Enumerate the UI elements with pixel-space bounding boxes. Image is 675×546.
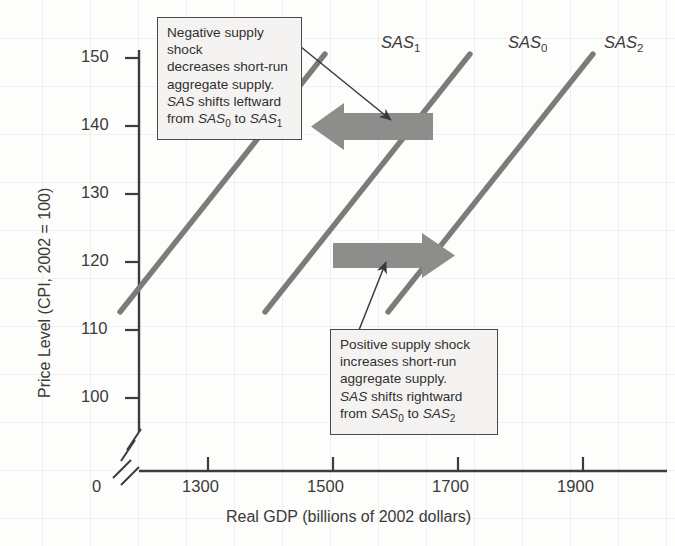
negative-note-leader <box>301 47 391 120</box>
y-tick-label-150: 150 <box>81 47 109 66</box>
negative-shock-note: Negative supply shock decreases short-ru… <box>157 17 302 140</box>
y-axis-title: Price Level (CPI, 2002 = 100) <box>36 188 54 398</box>
positive-note-sas-italic: SAS <box>340 389 367 404</box>
sas2-curve <box>388 54 593 312</box>
negative-note-line-4: SAS shifts leftward <box>167 93 293 110</box>
sas1-label-text: SAS <box>381 33 414 51</box>
positive-note-from: from <box>340 406 371 421</box>
negative-note-sas1: SAS <box>250 111 277 126</box>
positive-note-line4-rest: shifts rightward <box>367 389 462 404</box>
sas0-label-text: SAS <box>508 33 541 51</box>
y-tick-marks <box>125 58 139 398</box>
origin-label: 0 <box>92 477 101 496</box>
y-tick-label-130: 130 <box>81 183 109 202</box>
positive-note-line-3: aggregate supply. <box>340 370 489 387</box>
positive-note-sas0: SAS <box>371 406 398 421</box>
negative-note-to: to <box>231 111 250 126</box>
axis-break-marks <box>113 429 141 485</box>
positive-note-line-4: SAS shifts rightward <box>340 388 489 405</box>
x-tick-marks <box>208 457 583 471</box>
negative-note-sas0: SAS <box>198 111 225 126</box>
positive-note-line-2: increases short-run <box>340 353 489 370</box>
x-tick-label-1300: 1300 <box>182 477 219 496</box>
y-tick-label-120: 120 <box>81 251 109 270</box>
negative-note-sas-italic: SAS <box>167 94 194 109</box>
positive-note-line-1: Positive supply shock <box>340 336 489 353</box>
positive-note-sub2: 2 <box>450 413 456 424</box>
x-tick-label-1900: 1900 <box>557 477 594 496</box>
x-tick-label-1500: 1500 <box>307 477 344 496</box>
y-tick-label-140: 140 <box>81 115 109 134</box>
sas2-label-sub: 2 <box>637 42 643 54</box>
x-axis-title: Real GDP (billions of 2002 dollars) <box>226 508 471 526</box>
sas2-label-text: SAS <box>604 33 637 51</box>
y-tick-label-110: 110 <box>81 319 108 338</box>
negative-note-sub1: 1 <box>277 118 283 129</box>
negative-note-line4-rest: shifts leftward <box>194 94 281 109</box>
y-tick-label-100: 100 <box>81 387 109 406</box>
sas1-label-sub: 1 <box>414 42 420 54</box>
positive-note-line-5: from SAS0 to SAS2 <box>340 405 489 427</box>
negative-note-line-5: from SAS0 to SAS1 <box>167 110 293 132</box>
sas0-label: SAS0 <box>508 33 547 54</box>
rightward-shift-arrow <box>333 233 455 278</box>
x-tick-label-1700: 1700 <box>432 477 469 496</box>
sas1-label: SAS1 <box>381 33 420 54</box>
negative-note-from: from <box>167 111 198 126</box>
leftward-shift-arrow <box>311 103 433 150</box>
sas2-label: SAS2 <box>604 33 643 54</box>
negative-note-line-3: aggregate supply. <box>167 76 293 93</box>
positive-note-leader <box>359 262 386 330</box>
sas0-label-sub: 0 <box>541 42 547 54</box>
sas-supply-shock-figure: 150 140 130 120 110 100 0 1300 1500 1700… <box>0 0 675 546</box>
positive-shock-note: Positive supply shock increases short-ru… <box>330 329 498 435</box>
positive-note-to: to <box>404 406 423 421</box>
positive-note-sas2: SAS <box>423 406 450 421</box>
figure-canvas <box>0 0 675 546</box>
negative-note-line-2: decreases short-run <box>167 58 293 75</box>
negative-note-line-1: Negative supply shock <box>167 24 293 58</box>
